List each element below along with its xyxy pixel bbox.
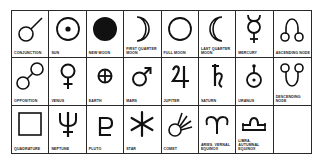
symbol-label: Mercury — [238, 51, 271, 55]
symbol-label: Star — [126, 147, 159, 151]
descending-node-icon — [277, 61, 307, 91]
symbol-label: Descending Node — [276, 95, 310, 103]
cell-first-quarter-moon: First Quarter Moon — [124, 11, 161, 58]
symbol-label: Jupiter — [164, 99, 197, 103]
aries-icon — [202, 109, 232, 139]
star-icon — [127, 109, 157, 139]
symbol-label: Conjunction — [14, 51, 47, 55]
cell-comet: Comet — [162, 106, 199, 153]
cell-venus: Venus — [49, 58, 86, 105]
uranus-icon — [239, 61, 269, 91]
jupiter-icon — [165, 61, 195, 91]
cell-quadrature: Quadrature — [12, 106, 49, 153]
new-moon-icon — [90, 14, 120, 44]
cell-saturn: Saturn — [199, 58, 236, 105]
neptune-icon — [53, 109, 83, 139]
cell-ascending-node: Ascending Node — [274, 11, 311, 58]
cell-sun: Sun — [49, 11, 86, 58]
mercury-icon — [239, 14, 269, 44]
cell-pluto: Pluto — [87, 106, 124, 153]
earth-icon — [90, 61, 120, 91]
symbol-label: Pluto — [89, 147, 122, 151]
quadrature-icon — [15, 109, 45, 139]
mars-icon — [127, 61, 157, 91]
opposition-icon — [15, 61, 45, 91]
cell-star: Star — [124, 106, 161, 153]
cell-empty — [274, 106, 311, 153]
symbol-label: Full Moon — [164, 51, 197, 55]
symbol-label: Neptune — [51, 147, 84, 151]
cell-opposition: Opposition — [12, 58, 49, 105]
cell-aries: Aries, Vernal Equinox — [199, 106, 236, 153]
cell-descending-node: Descending Node — [274, 58, 311, 105]
symbol-label: Earth — [89, 99, 122, 103]
symbol-label: New Moon — [89, 51, 122, 55]
cell-full-moon: Full Moon — [162, 11, 199, 58]
cell-jupiter: Jupiter — [162, 58, 199, 105]
first-quarter-moon-icon — [127, 14, 157, 44]
cell-mars: Mars — [124, 58, 161, 105]
cell-last-quarter-moon: Last Quarter Moon — [199, 11, 236, 58]
cell-uranus: Uranus — [236, 58, 273, 105]
symbol-label: Mars — [126, 99, 159, 103]
comet-icon — [165, 109, 195, 139]
symbol-label: Sun — [51, 51, 84, 55]
symbol-label: Uranus — [238, 99, 271, 103]
symbol-label: Venus — [51, 99, 84, 103]
full-moon-icon — [165, 14, 195, 44]
symbol-label: Saturn — [201, 99, 234, 103]
symbol-label: Libra, Autumnal Equinox — [238, 139, 271, 151]
symbol-label: Quadrature — [14, 147, 47, 151]
symbol-label: Last Quarter Moon — [201, 47, 234, 55]
astronomical-symbols-grid: Conjunction Sun New Moon First Quarter M… — [11, 10, 312, 154]
symbol-label: Aries, Vernal Equinox — [201, 143, 234, 151]
cell-new-moon: New Moon — [87, 11, 124, 58]
last-quarter-moon-icon — [202, 14, 232, 44]
symbol-label: Comet — [164, 147, 197, 151]
pluto-icon — [90, 109, 120, 139]
cell-neptune: Neptune — [49, 106, 86, 153]
cell-conjunction: Conjunction — [12, 11, 49, 58]
libra-icon — [239, 109, 269, 139]
cell-earth: Earth — [87, 58, 124, 105]
symbol-label: First Quarter Moon — [126, 47, 159, 55]
cell-libra: Libra, Autumnal Equinox — [236, 106, 273, 153]
venus-icon — [53, 61, 83, 91]
symbol-label: Opposition — [14, 99, 47, 103]
ascending-node-icon — [277, 14, 307, 44]
conjunction-icon — [15, 14, 45, 44]
symbol-label: Ascending Node — [276, 51, 310, 55]
cell-mercury: Mercury — [236, 11, 273, 58]
saturn-icon — [202, 61, 232, 91]
sun-icon — [53, 14, 83, 44]
